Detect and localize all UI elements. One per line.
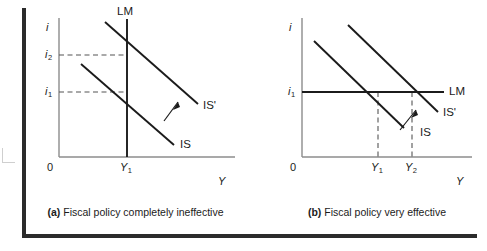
panel-a-is-curve-label: IS	[180, 139, 191, 151]
panel-a: i Y 0 i2 i1 Y1 LM IS IS' (a) Fiscal poli…	[28, 0, 243, 232]
panel-a-is-prime-curve-label: IS'	[203, 100, 216, 112]
panel-b-origin-label: 0	[290, 162, 296, 173]
panel-a-caption-text: Fiscal policy completely ineffective	[63, 206, 223, 218]
corner-crop-mark	[2, 148, 15, 163]
panel-a-i1-label: i1	[45, 86, 52, 97]
panel-a-caption-tag: (a)	[47, 206, 60, 218]
figure-container: i Y 0 i2 i1 Y1 LM IS IS' (a) Fiscal poli…	[0, 0, 487, 251]
panel-b-caption: (b) Fiscal policy very effective	[272, 206, 482, 218]
panel-a-x-axis-label: Y	[218, 176, 225, 187]
frame-left-rule	[22, 8, 26, 238]
panel-b-caption-text: Fiscal policy very effective	[324, 206, 446, 218]
frame-bottom-rule	[22, 234, 477, 238]
panel-b-i1-label: i1	[288, 86, 295, 97]
panel-b-caption-tag: (b)	[308, 206, 321, 218]
panel-b-y-axis-label: i	[289, 22, 291, 33]
panel-a-lm-curve-label: LM	[117, 6, 133, 18]
panel-a-shift-arrow-shaft	[164, 102, 178, 121]
panel-b-x-axis-label: Y	[456, 176, 463, 187]
panel-a-Y1-label: Y1	[120, 162, 132, 173]
panel-b-is-prime-curve-label: IS'	[443, 107, 456, 119]
panel-b: i Y 0 i1 Y1 Y2 LM IS IS' (b) Fiscal poli…	[272, 0, 482, 232]
panel-b-shift-arrow-shaft	[400, 110, 416, 130]
panel-a-y-axis-label: i	[46, 22, 48, 33]
panel-b-curve-is	[314, 41, 404, 128]
panel-a-caption: (a) Fiscal policy completely ineffective	[28, 206, 243, 218]
panel-b-is-curve-label: IS	[420, 127, 431, 139]
panel-b-Y2-label: Y2	[405, 162, 417, 173]
panel-b-curve-is-prime	[348, 25, 438, 112]
panel-a-origin-label: 0	[47, 162, 53, 173]
panel-a-i2-label: i2	[45, 49, 52, 60]
panel-b-Y1-label: Y1	[371, 162, 383, 173]
panel-b-lm-curve-label: LM	[449, 86, 465, 98]
